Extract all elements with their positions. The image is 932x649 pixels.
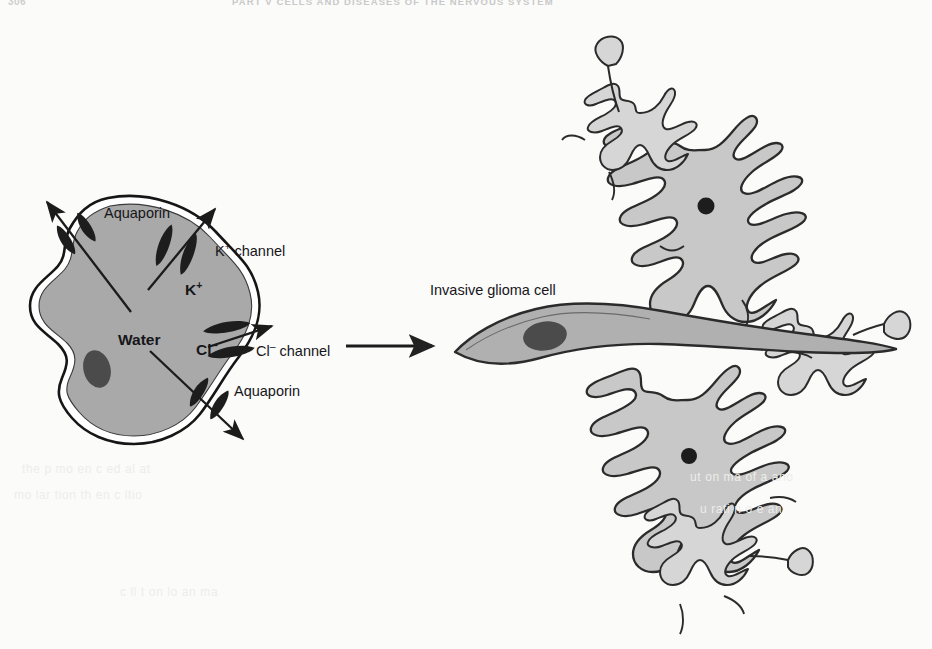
aquaporin-bottom-label: Aquaporin [234,384,300,399]
left-panel-group [30,196,272,444]
potassium-ion-base: K [185,281,196,298]
ghost-line: ut on ma of a ano [690,470,794,484]
potassium-ion-charge: + [196,279,202,291]
water-label: Water [118,332,161,348]
astrocyte-lower-nucleus [681,448,697,464]
figure-artwork [0,0,932,649]
ghost-line: u rati n o e an [700,502,782,516]
cl-channel-label-base: Cl [256,343,270,359]
right-panel-group [455,37,910,634]
cl-channel-label-suffix: channel [276,343,331,359]
figure-page: 306 PART V CELLS AND DISEASES OF THE NER… [0,0,932,649]
ghost-line: mo lar tion th en c ltio [14,488,142,502]
invasive-glioma-cell-label: Invasive glioma cell [430,283,556,298]
k-channel-label-base: K [215,243,225,259]
endfoot-right [853,311,910,339]
chloride-ion-label: Cl– [196,342,218,358]
aquaporin-top-label: Aquaporin [104,206,170,221]
k-channel-label-suffix: channel [230,243,285,259]
k-channel-label: K+ channel [215,244,285,259]
astrocyte-upper-nucleus [698,198,715,215]
cl-channel-label: Cl– channel [256,344,330,359]
ghost-line: the p mo en c ed al at [22,462,151,476]
potassium-ion-label: K+ [185,282,202,298]
chloride-ion-charge: – [212,339,218,351]
chloride-ion-base: Cl [196,341,212,358]
ghost-line: c ll t on lo an ma [120,585,218,599]
